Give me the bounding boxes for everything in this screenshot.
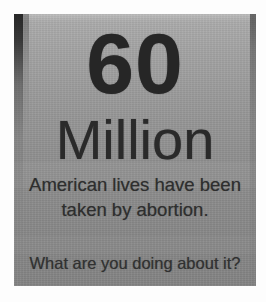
headline-unit: Million xyxy=(14,109,256,171)
call-to-action-text: What are you doing about it? xyxy=(18,252,252,274)
poster-content: 60 Million American lives have been take… xyxy=(14,14,256,286)
body-copy-line-1: American lives have been xyxy=(20,172,250,197)
poster-sheet: 60 Million American lives have been take… xyxy=(14,14,256,286)
body-copy: American lives have been taken by aborti… xyxy=(20,172,250,222)
photo-canvas: 60 Million American lives have been take… xyxy=(0,0,266,302)
body-copy-line-2: taken by abortion. xyxy=(20,197,250,222)
headline-number: 60 xyxy=(14,15,256,111)
